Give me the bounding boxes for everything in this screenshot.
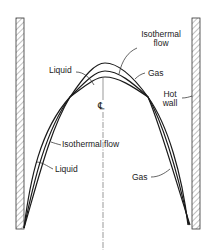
label-gas-bottom: Gas: [132, 173, 148, 182]
label-hot-wall: Hot wall: [158, 90, 182, 108]
label-isothermal-top-line2: flow: [136, 39, 186, 48]
label-liquid-top: Liquid: [49, 66, 72, 75]
centerline-symbol: ℄: [98, 101, 104, 110]
left-wall: [16, 18, 24, 229]
right-hot-wall: [192, 18, 200, 229]
label-hot-wall-line2: wall: [158, 99, 182, 108]
label-liquid-bottom: Liquid: [55, 165, 78, 174]
leader-hot-wall: [182, 96, 192, 98]
label-isothermal-bottom: Isothermal flow: [62, 140, 119, 149]
leader-isothermal-bottom: [51, 142, 61, 145]
leader-gas-top: [135, 73, 145, 79]
label-gas-top: Gas: [148, 69, 164, 78]
leader-isothermal-top: [119, 48, 137, 74]
label-isothermal-top: Isothermal flow: [136, 30, 186, 48]
leader-gas-bottom: [151, 169, 170, 177]
